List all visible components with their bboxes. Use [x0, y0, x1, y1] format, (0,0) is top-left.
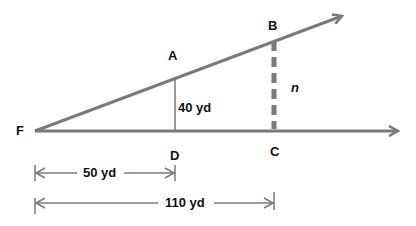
- label-FD-length: 50 yd: [83, 165, 116, 180]
- point-label-F: F: [16, 123, 24, 138]
- point-label-D: D: [170, 148, 179, 163]
- point-label-B: B: [268, 18, 277, 33]
- point-label-A: A: [168, 48, 177, 63]
- label-FC-length: 110 yd: [165, 195, 205, 210]
- similar-triangles-diagram: F A B C D 40 yd n 50 yd 110 yd: [0, 0, 416, 226]
- label-BC-variable: n: [291, 80, 299, 95]
- point-label-C: C: [270, 144, 279, 159]
- label-AD-length: 40 yd: [178, 100, 211, 115]
